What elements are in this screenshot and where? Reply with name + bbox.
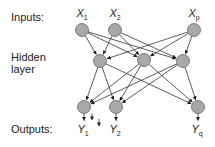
input-node-3 (188, 24, 201, 37)
edge-hidden1-output2 (102, 67, 113, 100)
input-node-1 (76, 24, 89, 37)
input-label-1: X1 (75, 7, 87, 21)
edge-input2-hidden1 (103, 36, 112, 54)
output-node-2 (110, 101, 123, 114)
edge-hidden3-output3 (185, 67, 196, 100)
edge-input3-hidden2 (150, 33, 188, 56)
edge-hidden1-output1 (86, 67, 97, 100)
output-label-3: Yq (191, 123, 202, 138)
hidden-node-2 (138, 54, 151, 67)
input-label-2: X2 (108, 7, 120, 21)
output-node-1 (78, 101, 91, 114)
output-node-3 (192, 101, 205, 114)
input-label-3: Xp (187, 7, 199, 22)
edge-input1-hidden1 (85, 36, 96, 55)
input-node-2 (109, 24, 122, 37)
neural-network-diagram: X1X2XpY1Y2Yq (0, 0, 215, 147)
edge-hidden1-output3 (106, 64, 191, 104)
output-label-1: Y1 (77, 123, 88, 137)
hidden-node-1 (94, 55, 107, 68)
edge-hidden3-output1 (91, 64, 177, 104)
output-label-2: Y2 (109, 123, 120, 137)
hidden-node-3 (177, 55, 190, 68)
edge-input3-hidden3 (186, 36, 192, 54)
